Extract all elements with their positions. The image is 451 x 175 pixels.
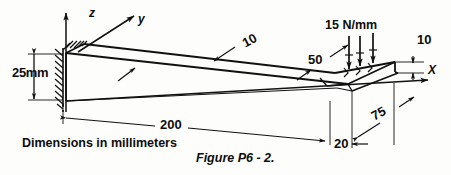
figure-container: z y X 25mm 200 20 75 10 10 50 15 N/mm Di… [0,0,451,175]
dim-label-root-depth: 25mm [12,66,48,79]
dim-thickness [395,56,424,80]
axis-label-x: X [428,64,436,76]
dim-label-load-span: 50 [308,53,322,66]
dim-label-length: 200 [160,118,182,131]
dim-label-thickness: 10 [417,33,431,46]
figure-caption: Figure P6 - 2. [196,152,275,165]
axis-label-z: z [89,7,95,19]
load-label: 15 N/mm [325,19,377,32]
dim-label-tip-depth: 20 [334,137,348,150]
dim-tip-depth [352,91,368,148]
units-note: Dimensions in millimeters [22,137,177,150]
axis-label-y: y [138,13,145,25]
